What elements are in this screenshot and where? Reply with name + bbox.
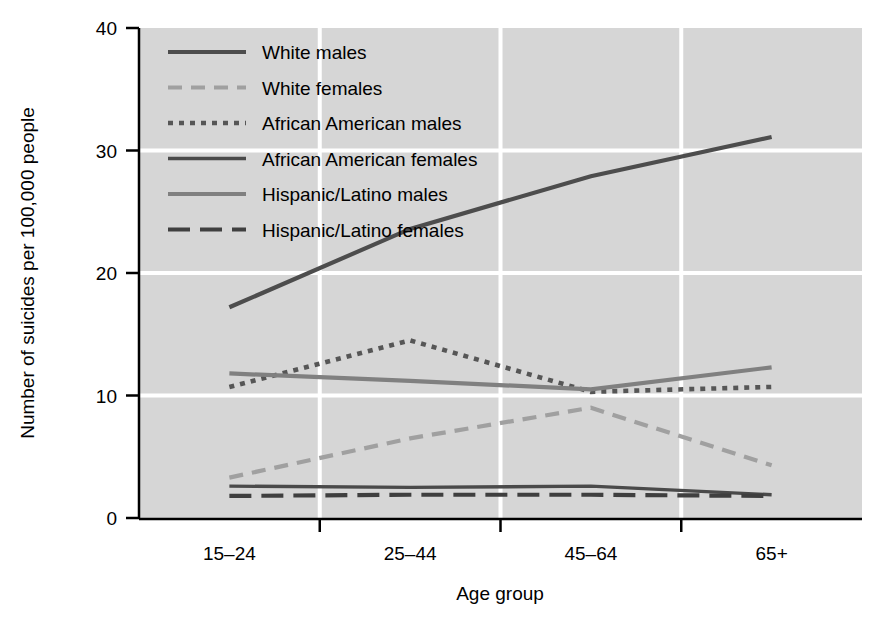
x-axis-title: Age group — [456, 583, 544, 604]
y-axis-tick-labels: 010203040 — [96, 18, 117, 529]
x-tick-label: 15–24 — [203, 543, 256, 564]
line-chart: 010203040 15–2425–4445–6465+ Number of s… — [0, 0, 879, 618]
series-line — [229, 495, 771, 496]
y-axis-title: Number of suicides per 100,000 people — [17, 107, 38, 439]
legend-label: White females — [262, 78, 382, 99]
y-tick-label: 30 — [96, 141, 117, 162]
legend-label: White males — [262, 42, 367, 63]
x-axis-ticks — [320, 519, 682, 532]
legend-label: Hispanic/Latino males — [262, 184, 448, 205]
x-tick-label: 25–44 — [384, 543, 437, 564]
x-tick-label: 65+ — [756, 543, 788, 564]
x-axis-tick-labels: 15–2425–4445–6465+ — [203, 543, 788, 564]
y-tick-label: 20 — [96, 263, 117, 284]
x-tick-label: 45–64 — [564, 543, 617, 564]
y-tick-label: 40 — [96, 18, 117, 39]
y-tick-label: 0 — [106, 508, 117, 529]
legend-label: African American males — [262, 113, 462, 134]
y-tick-label: 10 — [96, 386, 117, 407]
legend-label: African American females — [262, 149, 477, 170]
legend-label: Hispanic/Latino females — [262, 220, 464, 241]
y-axis-ticks — [126, 28, 139, 518]
figure-container: 010203040 15–2425–4445–6465+ Number of s… — [0, 0, 879, 618]
